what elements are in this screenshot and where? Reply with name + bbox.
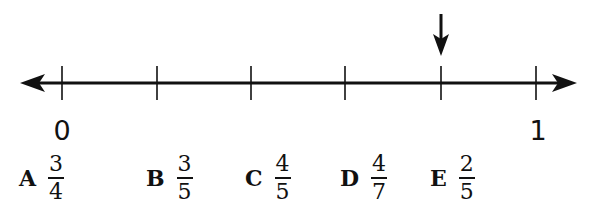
denominator: 5 xyxy=(459,179,475,203)
choice-c[interactable]: C 4 5 xyxy=(245,153,291,203)
choice-b[interactable]: B 3 5 xyxy=(146,153,193,203)
start-label: 0 xyxy=(53,117,70,144)
choice-letter: A xyxy=(19,167,36,189)
numerator: 4 xyxy=(371,153,387,177)
choice-letter: D xyxy=(340,167,359,189)
choice-letter: E xyxy=(430,167,447,189)
fraction: 2 5 xyxy=(459,153,475,203)
choice-a[interactable]: A 3 4 xyxy=(19,153,64,203)
fraction: 3 5 xyxy=(177,153,193,203)
down-arrow-icon xyxy=(433,14,449,56)
fraction: 4 5 xyxy=(275,153,291,203)
numerator: 2 xyxy=(459,153,475,177)
number-line-question: 0 1 A 3 4 B 3 5 C 4 5 D 4 7 xyxy=(0,0,593,215)
numerator: 3 xyxy=(48,153,64,177)
numerator: 4 xyxy=(275,153,291,177)
number-line xyxy=(0,0,593,215)
choice-d[interactable]: D 4 7 xyxy=(340,153,387,203)
fraction: 3 4 xyxy=(48,153,64,203)
numerator: 3 xyxy=(177,153,193,177)
denominator: 7 xyxy=(371,179,387,203)
denominator: 5 xyxy=(177,179,193,203)
choice-letter: B xyxy=(146,167,165,189)
end-label: 1 xyxy=(529,117,546,144)
denominator: 5 xyxy=(275,179,291,203)
fraction: 4 7 xyxy=(371,153,387,203)
denominator: 4 xyxy=(48,179,64,203)
choice-e[interactable]: E 2 5 xyxy=(430,153,475,203)
choice-letter: C xyxy=(245,167,263,189)
